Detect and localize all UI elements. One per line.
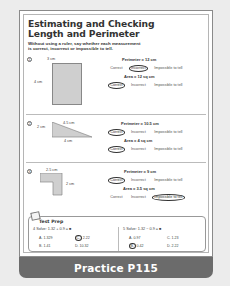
option-letter: C. [167, 236, 171, 240]
problem-2: 2 2 cm 4.5 cm 4 cm Perimeter = 10.5 cm C… [24, 119, 208, 159]
choice-impossible[interactable]: Impossible to tell [152, 82, 185, 89]
option-value: 0.42 [137, 244, 144, 248]
worksheet-sheet: Estimating and Checking Length and Perim… [19, 10, 213, 257]
test-prep-box: Test Prep 4 Solve: 1.32 + 0.9 = ■ A. 1.3… [28, 216, 206, 252]
choice-impossible[interactable]: Impossible to tell [152, 177, 185, 184]
perimeter-statement: Perimeter = 12 cm [122, 57, 156, 62]
problem-number: 1 [27, 57, 32, 62]
option-b[interactable]: B. 1.41 [39, 244, 50, 248]
option-b[interactable]: B. 0.42 [129, 244, 144, 248]
instructions: Without using a ruler, say whether each … [28, 41, 208, 52]
area-statement: Area = 3.5 sq cm [123, 186, 155, 191]
question-prompt: Solve: 1.32 + 0.9 = ■ [36, 227, 71, 231]
question-number: 4 [33, 227, 35, 231]
rectangle-shape [52, 63, 82, 105]
option-letter: A. [39, 236, 42, 240]
instructions-impossible: impossible to tell [76, 46, 112, 51]
perimeter-choices: Correct Incorrect Impossible to tell [108, 129, 185, 136]
page-title: Estimating and Checking Length and Perim… [28, 19, 208, 39]
choice-incorrect[interactable]: Incorrect [129, 146, 148, 153]
option-value: 2.22 [172, 244, 179, 248]
option-value: 10.32 [80, 244, 89, 248]
option-c[interactable]: C. 1.23 [167, 236, 179, 240]
option-value: 1.329 [43, 236, 52, 240]
perimeter-choices: Correct Incorrect Impossible to tell [108, 65, 185, 72]
choice-incorrect[interactable]: Incorrect [129, 194, 148, 201]
choice-incorrect[interactable]: Incorrect [129, 177, 148, 184]
option-d[interactable]: D. 2.22 [167, 244, 179, 248]
shape-label-top: 3 cm [47, 57, 55, 61]
choice-impossible[interactable]: Impossible to tell [152, 194, 185, 201]
question-number: 5 [123, 227, 125, 231]
title-line-2: Length and Perimeter [28, 29, 208, 39]
instructions-correct: correct [33, 46, 48, 51]
perimeter-choices: Correct Incorrect Impossible to tell [108, 177, 185, 184]
shape-label-left: 2 cm [37, 125, 45, 129]
area-choices: Correct Incorrect Impossible to tell [108, 82, 185, 89]
divider [26, 114, 206, 115]
test-prep-title: Test Prep [39, 219, 63, 224]
shape-label-right: 2 cm [66, 182, 74, 186]
choice-correct[interactable]: Correct [108, 177, 125, 184]
option-value: 0.97 [133, 236, 140, 240]
instructions-or: or [69, 46, 76, 51]
choice-impossible[interactable]: Impossible to tell [152, 65, 185, 72]
perimeter-statement: Perimeter = 9 cm [124, 169, 156, 174]
instructions-line-1: Without using a ruler, say whether each … [28, 41, 140, 46]
option-d[interactable]: D. 10.32 [75, 244, 89, 248]
worksheet-page: Estimating and Checking Length and Perim… [19, 10, 213, 278]
option-letter: A. [129, 236, 132, 240]
divider [26, 162, 206, 163]
choice-impossible[interactable]: Impossible to tell [152, 146, 185, 153]
area-choices: Correct Incorrect Impossible to tell [108, 146, 185, 153]
choice-incorrect[interactable]: Incorrect [129, 82, 148, 89]
problem-3: 3 2.5 cm 2 cm Perimeter = 9 cm Correct I… [24, 167, 208, 209]
choice-incorrect[interactable]: Incorrect [129, 65, 148, 72]
option-letter: D. [167, 244, 171, 248]
choice-correct[interactable]: Correct [108, 194, 125, 201]
problem-number: 2 [27, 121, 32, 126]
area-statement: Area = 12 sq cm [124, 74, 155, 79]
choice-incorrect[interactable]: Incorrect [129, 129, 148, 136]
option-value: 1.23 [172, 236, 179, 240]
option-value: 2.22 [83, 236, 90, 240]
choice-correct[interactable]: Correct [108, 146, 125, 153]
option-letter: B. [129, 243, 136, 249]
choice-impossible[interactable]: Impossible to tell [152, 129, 185, 136]
l-shape [40, 173, 64, 197]
choice-correct[interactable]: Correct [108, 82, 125, 89]
option-letter: B. [39, 244, 42, 248]
question-prompt: Solve: 1.32 − 0.9 = ■ [126, 227, 161, 231]
shape-label-bottom: 4 cm [64, 139, 72, 143]
perimeter-statement: Perimeter = 10.5 cm [121, 121, 159, 126]
option-value: 1.41 [43, 244, 50, 248]
choice-correct[interactable]: Correct [108, 65, 125, 72]
option-a[interactable]: A. 0.97 [129, 236, 140, 240]
choice-correct[interactable]: Correct [108, 129, 125, 136]
test-prep-question-5: 5 Solve: 1.32 − 0.9 = ■ [123, 227, 161, 231]
divider [118, 227, 119, 251]
instructions-period: . [112, 46, 113, 51]
page-footer-label: Practice P115 [19, 258, 213, 278]
option-letter: D. [75, 244, 79, 248]
option-letter: C. [75, 235, 82, 241]
option-c[interactable]: C. 2.22 [75, 236, 90, 240]
test-prep-question-4: 4 Solve: 1.32 + 0.9 = ■ [33, 227, 71, 231]
option-a[interactable]: A. 1.329 [39, 236, 52, 240]
instructions-incorrect: incorrect [50, 46, 69, 51]
shape-label-hypotenuse: 4.5 cm [63, 121, 74, 125]
shape-label-left: 4 cm [34, 80, 42, 84]
problem-number: 3 [27, 169, 32, 174]
area-statement: Area = 4 sq cm [124, 138, 152, 143]
problem-1: 1 3 cm 4 cm Perimeter = 12 cm Correct In… [24, 57, 208, 107]
area-choices: Correct Incorrect Impossible to tell [108, 194, 185, 201]
shape-label-top: 2.5 cm [46, 168, 57, 172]
